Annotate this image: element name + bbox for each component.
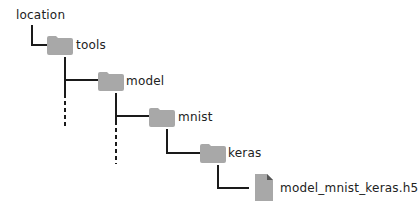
connector-horizontal — [217, 187, 249, 189]
node-label-keras: keras — [228, 146, 261, 160]
connector-vertical — [217, 165, 219, 189]
node-label-file: model_mnist_keras.h5 — [280, 181, 418, 195]
connector-dashed-continuation — [115, 128, 117, 164]
connector-horizontal — [115, 115, 149, 117]
connector-horizontal — [31, 44, 47, 46]
node-label-tools: tools — [76, 38, 106, 52]
folder-icon — [47, 35, 73, 55]
node-label-mnist: mnist — [178, 110, 213, 124]
file-icon — [255, 173, 273, 201]
connector-horizontal — [64, 79, 98, 81]
connector-dashed-continuation — [64, 101, 66, 129]
connector-vertical — [115, 93, 117, 125]
connector-vertical — [64, 57, 66, 98]
folder-icon — [98, 71, 124, 91]
connector-horizontal — [166, 152, 200, 154]
folder-icon — [200, 143, 226, 163]
connector-vertical — [31, 25, 33, 46]
connector-vertical — [166, 129, 168, 154]
root-label: location — [16, 8, 65, 22]
folder-icon — [149, 107, 175, 127]
node-label-model: model — [126, 74, 164, 88]
